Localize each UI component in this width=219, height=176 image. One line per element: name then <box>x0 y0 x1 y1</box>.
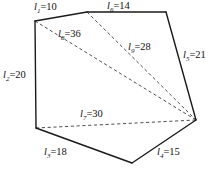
label-l6-value: =14 <box>113 0 129 11</box>
label-l5-value: =21 <box>189 49 205 60</box>
label-l5: l5=21 <box>183 50 206 63</box>
label-l8: l8=36 <box>58 29 81 42</box>
label-l3: l3=18 <box>44 147 67 160</box>
label-l4-value: =15 <box>163 146 179 157</box>
polygon-figure: l1=10 l6=14 l5=21 l2=20 l3=18 l4=15 l8=3… <box>0 0 219 176</box>
label-l4: l4=15 <box>157 147 180 160</box>
label-l1: l1=10 <box>34 2 57 15</box>
label-l3-value: =18 <box>50 146 66 157</box>
figure-canvas <box>0 0 219 176</box>
label-l6: l6=14 <box>107 1 130 14</box>
label-l2-value: =20 <box>9 69 25 80</box>
label-l7-value: =30 <box>86 108 102 119</box>
label-l9: l9=28 <box>128 42 151 55</box>
label-l2: l2=20 <box>3 70 26 83</box>
label-l8-value: =36 <box>64 28 80 39</box>
label-l9-value: =28 <box>134 41 150 52</box>
edge-l2 <box>35 21 36 128</box>
label-l7: l7=30 <box>80 109 103 122</box>
label-l1-value: =10 <box>40 1 56 12</box>
figure-caption <box>0 164 219 176</box>
